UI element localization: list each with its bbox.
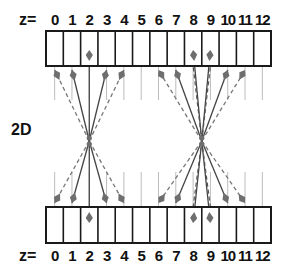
bottom-z-prefix: z= <box>19 248 36 264</box>
z-index-label: 7 <box>167 12 184 28</box>
z-index-label: 8 <box>185 248 202 264</box>
z-index-label: 11 <box>237 248 254 264</box>
right-focus-top-arrow-head <box>174 70 181 80</box>
right-focus-bottom-arrow-head <box>239 194 245 203</box>
z-index-label: 6 <box>150 12 167 28</box>
z-index-label: 10 <box>219 12 236 28</box>
z-index-label: 1 <box>63 12 80 28</box>
z-index-label: 4 <box>115 12 132 28</box>
right-focus-focal-point <box>199 141 204 146</box>
top-cell-row <box>46 31 271 66</box>
z-index-label: 6 <box>150 248 167 264</box>
left-focus-bottom-arrow-head <box>70 192 77 203</box>
z-index-label: 9 <box>202 12 219 28</box>
dimension-label-2d: 2D <box>11 122 31 138</box>
z-index-label: 0 <box>46 12 63 28</box>
z-index-label: 3 <box>98 12 115 28</box>
left-focus-top-arrow-head <box>102 70 109 81</box>
ray-lines <box>55 50 245 223</box>
z-index-label: 5 <box>133 12 150 28</box>
z-index-label: 2 <box>81 12 98 28</box>
z-index-label: 1 <box>63 248 80 264</box>
z-index-label: 0 <box>46 248 63 264</box>
guide-lines <box>55 66 263 207</box>
z-index-label: 2 <box>81 248 98 264</box>
z-index-label: 7 <box>167 248 184 264</box>
z-index-label: 12 <box>254 12 271 28</box>
z-index-label: 11 <box>237 12 254 28</box>
diagram-svg <box>0 0 288 272</box>
cell-rows <box>46 31 271 243</box>
z-index-label: 12 <box>254 248 271 264</box>
right-focus-focal-point <box>199 135 204 140</box>
left-focus-focal-point <box>87 135 92 140</box>
right-focus-top-arrow-head <box>223 70 230 80</box>
left-focus-top-arrow-head <box>70 70 77 81</box>
z-index-label: 8 <box>185 12 202 28</box>
z-index-label: 9 <box>202 248 219 264</box>
top-z-prefix: z= <box>19 12 36 28</box>
left-focus-bottom-arrow-head <box>102 192 109 203</box>
z-index-label: 5 <box>133 248 150 264</box>
left-focus-focal-point <box>87 141 92 146</box>
z-index-label: 3 <box>98 248 115 264</box>
diagram-canvas: z= z= 2D 0123456789101112 01234567891011… <box>0 0 288 272</box>
arrowheads <box>54 50 246 223</box>
z-index-label: 4 <box>115 248 132 264</box>
z-index-label: 10 <box>219 248 236 264</box>
right-focus-bottom-arrow-head <box>158 194 164 203</box>
bottom-cell-row <box>46 207 271 243</box>
